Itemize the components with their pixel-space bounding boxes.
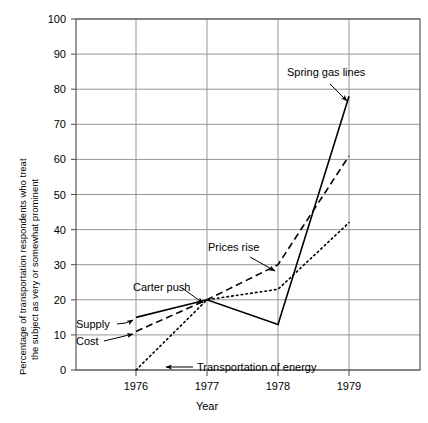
- annotation-supply: Supply: [76, 318, 133, 330]
- x-axis-tick-labels: 1976 1977 1978 1979: [124, 380, 361, 392]
- annotation-label: Spring gas lines: [287, 66, 366, 78]
- annotation-prices-rise: Prices rise: [208, 241, 275, 271]
- y-tick-label: 90: [54, 48, 66, 60]
- annotation-label: Transportation of energy: [197, 361, 317, 373]
- annotation-label: Carter push: [133, 281, 190, 293]
- y-tick-label: 40: [54, 224, 66, 236]
- annotation-transportation-of-energy: Transportation of energy: [166, 361, 317, 373]
- horizontal-gridlines: [76, 19, 420, 370]
- y-tick-label: 0: [60, 364, 66, 376]
- y-tick-label: 100: [48, 13, 66, 25]
- y-tick-label: 70: [54, 118, 66, 130]
- x-axis-title: Year: [196, 400, 219, 412]
- annotation-label: Cost: [76, 335, 99, 347]
- x-tick-label: 1976: [124, 380, 148, 392]
- y-axis-title-line2: the subject as very or somewhat prominen…: [29, 179, 40, 360]
- y-axis-title-line1: Percentage of transportation respondents…: [17, 158, 28, 375]
- y-tick-label: 60: [54, 153, 66, 165]
- x-tick-label: 1977: [195, 380, 219, 392]
- y-axis-title: Percentage of transportation respondents…: [17, 158, 40, 375]
- annotation-spring-gas-lines: Spring gas lines: [287, 66, 366, 101]
- y-tick-label: 30: [54, 259, 66, 271]
- y-tick-label: 20: [54, 294, 66, 306]
- y-tick-label: 50: [54, 189, 66, 201]
- chart-container: 100 90 80 70 60 50 40 30 20 10 0 1976 19…: [0, 0, 428, 423]
- y-axis-tick-labels: 100 90 80 70 60 50 40 30 20 10 0: [48, 13, 66, 376]
- annotation-cost: Cost: [76, 334, 133, 347]
- x-tick-label: 1979: [337, 380, 361, 392]
- annotation-label: Prices rise: [208, 241, 259, 253]
- x-tick-label: 1978: [266, 380, 290, 392]
- y-tick-label: 10: [54, 329, 66, 341]
- annotation-label: Supply: [76, 318, 110, 330]
- y-tick-label: 80: [54, 83, 66, 95]
- line-chart: 100 90 80 70 60 50 40 30 20 10 0 1976 19…: [0, 0, 428, 423]
